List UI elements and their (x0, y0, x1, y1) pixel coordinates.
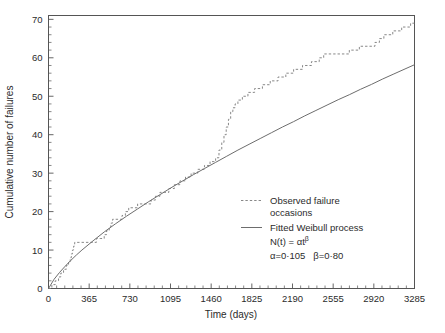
y-tick-label: 30 (32, 168, 43, 179)
chart-svg: 03657301095146018252190255529203285 0102… (0, 0, 445, 333)
y-tick-label: 20 (32, 206, 43, 217)
y-tick-label: 50 (32, 91, 43, 102)
alpha-value: 0·105 (281, 250, 305, 261)
legend-label-observed-line1: Observed failure (270, 195, 340, 206)
y-tick-label: 40 (32, 129, 43, 140)
x-tick-label: 3285 (404, 293, 425, 304)
beta-value: 0·80 (324, 250, 343, 261)
x-tick-label: 1825 (241, 293, 262, 304)
chart-background (0, 0, 445, 333)
x-tick-label: 730 (122, 293, 138, 304)
x-tick-label: 0 (46, 293, 51, 304)
x-tick-label: 1095 (160, 293, 181, 304)
legend-label-fitted: Fitted Weibull process (270, 222, 364, 233)
x-tick-label: 1460 (201, 293, 222, 304)
legend-model-parameters: α=0·105 β=0·80 (270, 250, 343, 261)
x-tick-label: 2190 (282, 293, 303, 304)
equation-lhs: N(t) (270, 236, 286, 247)
x-axis-title: Time (days) (205, 309, 257, 320)
y-tick-label: 70 (32, 14, 43, 25)
x-tick-label: 2920 (363, 293, 384, 304)
y-tick-label: 60 (32, 52, 43, 63)
y-axis-title: Cumulative number of failures (4, 86, 15, 219)
equation-rhs-exponent: β (305, 235, 309, 243)
x-tick-label: 365 (81, 293, 97, 304)
chart-figure: 03657301095146018252190255529203285 0102… (0, 0, 445, 333)
y-tick-label: 10 (32, 245, 43, 256)
y-tick-label: 0 (37, 283, 42, 294)
legend-label-observed-line2: occasions (270, 207, 312, 218)
legend-model-equation: N(t) = αtβ (270, 235, 309, 247)
x-tick-label: 2555 (323, 293, 344, 304)
